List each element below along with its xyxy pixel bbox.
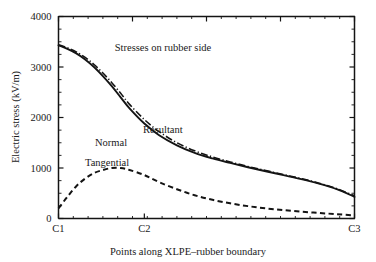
y-tick-label: 0 bbox=[46, 213, 51, 224]
series-line-resultant bbox=[59, 45, 355, 196]
y-axis-tick-labels: 01000200030004000 bbox=[31, 11, 52, 224]
x-tick-label: C3 bbox=[348, 223, 360, 234]
x-tick-label: C1 bbox=[52, 223, 64, 234]
series-line-normal bbox=[59, 45, 355, 197]
chart-figure: 01000200030004000 C1C2C3 Resultant Norma… bbox=[0, 0, 376, 262]
series-line-tangential bbox=[59, 168, 355, 216]
y-axis-title: Electric stress (kV/m) bbox=[10, 70, 22, 163]
x-axis-ticks bbox=[59, 214, 355, 219]
plot-annotation: Stresses on rubber side bbox=[115, 42, 212, 53]
electric-stress-line-chart: 01000200030004000 C1C2C3 Resultant Norma… bbox=[0, 0, 376, 262]
x-axis-title: Points along XLPE–rubber boundary bbox=[110, 246, 267, 257]
top-frame-ticks bbox=[59, 17, 355, 22]
series-label-normal: Normal bbox=[95, 137, 127, 148]
x-tick-label: C2 bbox=[138, 223, 150, 234]
y-tick-label: 1000 bbox=[31, 163, 52, 174]
x-axis-tick-labels: C1C2C3 bbox=[52, 223, 360, 234]
y-tick-label: 3000 bbox=[31, 62, 52, 73]
series-label-tangential: Tangential bbox=[85, 157, 129, 168]
y-tick-label: 4000 bbox=[31, 11, 52, 22]
data-curves bbox=[59, 45, 355, 216]
series-label-resultant: Resultant bbox=[143, 124, 183, 135]
y-tick-label: 2000 bbox=[31, 112, 52, 123]
